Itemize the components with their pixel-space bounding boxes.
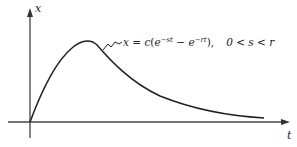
eq-minus: − [176,36,185,48]
eq-term1-exp: −st [161,36,173,44]
diagram-canvas [0,0,297,147]
eq-condition: 0 < s < r [226,36,274,48]
eq-equals: = [132,36,141,48]
y-axis-label: x [35,3,41,14]
curve-equation: x = c(e−st − e−rt),0 < s < r [123,37,274,48]
x-axis-arrow-icon [281,119,290,125]
annotation-leader [103,42,122,50]
response-curve [30,41,264,122]
eq-coef: c [144,36,150,48]
eq-comma: , [211,36,214,48]
eq-term2-exp: −rt [195,36,207,44]
y-axis-arrow-icon [27,8,33,17]
x-axis-label: t [287,130,291,141]
eq-lhs: x [123,36,129,48]
